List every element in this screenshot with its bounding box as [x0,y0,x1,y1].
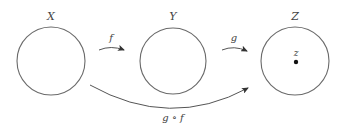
arrow-g: g [222,32,247,51]
set-y: Y [140,10,206,94]
point-z-dot [294,60,298,64]
arrow-g-of-f-path [90,85,248,108]
set-x-circle [17,27,85,95]
arrow-g-of-f-label: g ∘ f [162,112,186,123]
arrow-g-label: g [231,32,237,43]
composition-diagram: X Y Z z f g g ∘ f [0,0,343,126]
set-y-label: Y [169,10,178,23]
set-y-circle [140,28,206,94]
point-z-label: z [293,48,299,58]
diagram-canvas: X Y Z z f g g ∘ f [0,0,343,126]
set-z-label: Z [290,10,299,23]
arrow-f-label: f [108,32,115,43]
arrow-f: f [99,32,124,50]
arrow-f-path [99,48,124,51]
arrow-g-of-f: g ∘ f [90,85,248,123]
set-x-label: X [46,10,56,23]
set-x: X [17,10,85,95]
set-z: Z z [261,10,329,95]
arrow-g-path [222,48,247,51]
